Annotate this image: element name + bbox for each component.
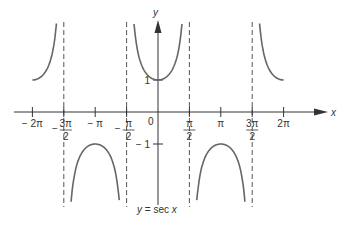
x-tick-label-den: 2 [63, 131, 69, 142]
sec-branch [71, 144, 119, 202]
y-axis-arrow-icon [155, 20, 162, 33]
x-tick-label-den: 2 [249, 131, 255, 142]
y-axis-label: y [152, 7, 159, 18]
x-tick-label-sign: − [52, 123, 58, 134]
x-tick-label-num: π [186, 118, 193, 129]
x-tick-label-den: 2 [126, 131, 132, 142]
x-tick-label-num: π [125, 118, 132, 129]
y-tick-label: − 1 [136, 139, 151, 150]
axes: x y 0 [14, 7, 337, 205]
x-axis-label: x [330, 107, 337, 118]
sec-branch [197, 144, 245, 202]
sec-branch [32, 24, 56, 81]
sec-chart: x y 0 − 2π3π2−− ππ2−π2π3π22π 1− 1 y = se… [0, 0, 344, 227]
x-tick-label: − 2π [22, 118, 43, 129]
x-axis-arrow-icon [314, 109, 328, 116]
x-tick-label: − π [87, 118, 103, 129]
x-tick-label-sign: − [115, 123, 121, 134]
x-tick-label-num: 3π [60, 118, 73, 129]
origin-label: 0 [148, 116, 154, 127]
x-tick-label: 2π [277, 118, 290, 129]
x-tick-label: π [217, 118, 224, 129]
chart-title: y = sec x [136, 204, 178, 215]
x-tick-label-num: 3π [246, 118, 259, 129]
sec-branch [260, 24, 284, 81]
x-tick-label-den: 2 [187, 131, 193, 142]
